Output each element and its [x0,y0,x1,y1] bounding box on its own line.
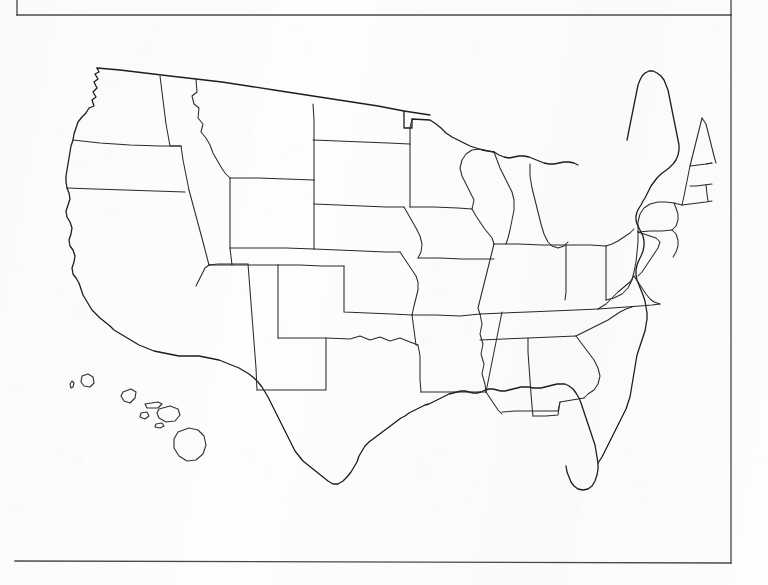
boundary-il-in [565,245,566,300]
boundary-az-nm [248,264,257,390]
boundary-tn-ky [480,309,598,314]
boundary-mo-il [478,244,494,314]
united-states-outline-map[interactable] [0,0,768,585]
boundary-wa-or [73,140,181,146]
atlantic-coast [598,71,679,463]
island-niihau [70,381,74,388]
island-maui [157,406,180,422]
boundary-vt-nh [692,118,702,158]
boundary-nv-ut [189,190,209,265]
boundary-ny-ct-ma-south [682,201,712,205]
boundary-co-ks [278,265,344,266]
boundary-pa-nj [672,203,678,230]
boundary-ky-va-wv [598,276,634,309]
island-oahu [121,389,136,403]
boundary-mi-lake-michigan [530,164,568,248]
pacific-coast-and-southern-border [66,68,598,490]
boundary-wi-il-mi [494,244,566,245]
boundary-sd-ne [314,204,404,207]
island-molokai [145,402,162,408]
boundary-ut-co [230,248,232,265]
boundary-md-de [672,230,678,257]
boundary-oh-pa-wv [606,232,638,300]
boundary-wy-co-ne [230,248,314,249]
island-lanai [140,412,149,419]
boundary-nh-me [702,118,716,163]
boundary-ia-mo [418,258,494,259]
boundary-mt-wy [230,178,314,180]
boundary-nm-tx [257,338,326,390]
boundary-ar-ms-east [480,314,486,392]
boundary-va-wv [634,276,660,304]
boundary-ok-ar [412,315,418,345]
boundary-sc-nc [576,307,632,336]
boundary-ne-ia-mo [404,207,422,258]
boundary-or-id-nv [67,188,185,192]
page-border-rule [15,0,731,563]
boundary-mt-nd-sd [313,104,314,180]
island-kahoolawe [155,423,164,428]
boundary-al-fl [502,402,560,412]
boundary-mn-ia [410,207,472,209]
boundary-oh-mi [606,229,634,246]
great-lakes-outline [494,152,578,165]
boundary-wa-id [160,76,181,146]
boundary-pa-md-south [638,230,672,232]
boundary-in-oh [566,245,606,246]
northern-border-minnesota [404,111,494,152]
scanned-page [0,0,768,585]
boundary-mo-ar [412,314,480,316]
border-bottom-rule [15,561,731,563]
boundary-la-ms-east [486,392,502,414]
boundary-or-idaho-east [181,146,189,190]
boundary-ma-ct-ri [690,184,712,186]
island-hawaii [174,428,206,461]
island-kauai [81,374,94,387]
boundary-nd-sd [313,140,410,144]
boundary-ny-vt-ma [682,158,692,205]
boundary-ks-ok [344,266,412,315]
boundary-ok-tx [326,336,421,392]
boundary-ms-al [486,312,502,392]
boundary-al-ga [528,338,533,416]
boundary-mn-wi [460,149,494,209]
state-boundaries [67,76,716,416]
boundary-ma-nh-east [706,163,712,164]
boundary-ga-sc-nc [576,336,600,398]
northern-border-west [97,68,430,115]
national-outline [66,68,679,490]
boundary-nd-mn [410,119,412,144]
boundary-wi-mi-east [494,152,514,244]
boundary-ct-ri [706,185,708,201]
boundary-ks-mo [400,252,418,315]
boundary-nv-ca-south [196,265,209,286]
boundary-ia-wi-il [472,209,494,244]
hawaii-inset[interactable] [70,374,206,461]
boundary-id-mt-west [192,79,230,178]
boundary-ne-ks [314,249,400,252]
